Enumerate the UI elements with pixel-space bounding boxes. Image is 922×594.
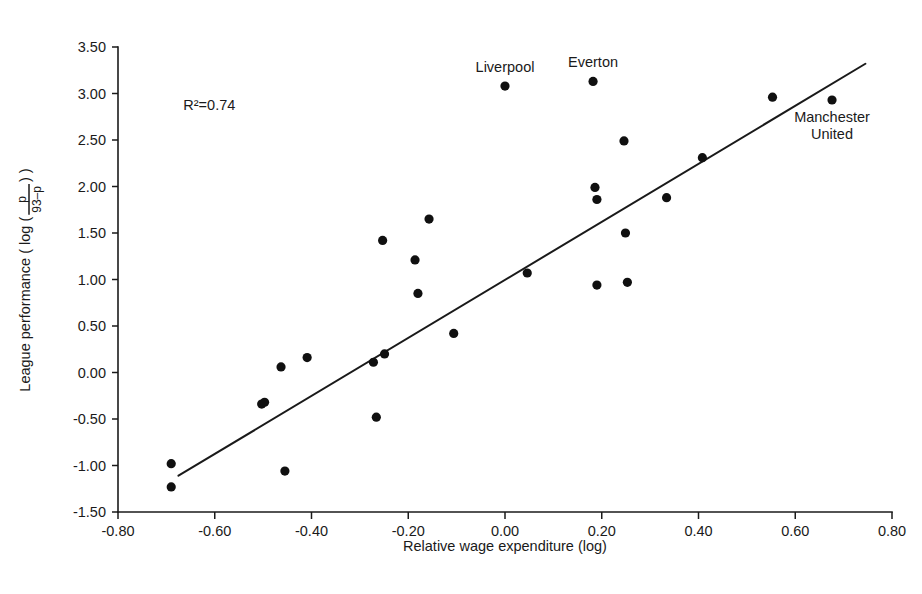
data-point [410, 255, 419, 264]
x-tick-label: 0.80 [878, 523, 906, 539]
chart-figure: -1.50-1.00-0.500.000.501.001.502.002.503… [0, 0, 922, 594]
y-tick-label: -1.50 [73, 504, 106, 520]
y-axis-title-text: League performance ( log ( [17, 217, 33, 392]
data-point [827, 95, 836, 104]
data-point [500, 81, 509, 90]
data-point [369, 358, 378, 367]
x-tick-label: 0.00 [491, 523, 519, 539]
x-axis-ticks: -0.80-0.60-0.40-0.200.000.200.400.600.80 [101, 512, 906, 539]
y-tick-label: 3.00 [78, 86, 106, 102]
x-tick-label: -0.80 [101, 523, 134, 539]
data-point [621, 228, 630, 237]
x-tick-label: 0.60 [781, 523, 809, 539]
y-tick-label: 1.50 [78, 225, 106, 241]
point-annotation-label: Manchester [794, 109, 870, 125]
point-annotations-group: LiverpoolEvertonManchesterUnited [476, 54, 870, 142]
y-axis-ticks: -1.50-1.00-0.500.000.501.001.502.002.503… [73, 39, 118, 520]
data-point [698, 153, 707, 162]
data-point [280, 466, 289, 475]
x-tick-label: -0.20 [392, 523, 425, 539]
y-tick-label: 0.50 [78, 318, 106, 334]
regression-trend-line [178, 64, 865, 476]
point-annotation-label: United [811, 126, 853, 142]
data-point [380, 349, 389, 358]
y-axis-title-suffix: ) ) [17, 168, 33, 182]
data-points-group [167, 77, 837, 492]
data-point [167, 482, 176, 491]
x-axis-title: Relative wage expenditure (log) [403, 538, 607, 554]
data-point [167, 459, 176, 468]
data-point [424, 214, 433, 223]
data-point [260, 398, 269, 407]
data-point [623, 278, 632, 287]
data-point [372, 413, 381, 422]
point-annotation-label: Everton [568, 54, 618, 70]
data-point [768, 93, 777, 102]
x-tick-label: -0.40 [295, 523, 328, 539]
data-point [662, 193, 671, 202]
y-tick-label: 1.00 [78, 272, 106, 288]
x-tick-label: -0.60 [198, 523, 231, 539]
data-point [303, 353, 312, 362]
data-point [588, 77, 597, 86]
x-tick-label: 0.20 [588, 523, 616, 539]
y-tick-label: 2.00 [78, 179, 106, 195]
y-tick-label: 2.50 [78, 132, 106, 148]
point-annotation-label: Liverpool [476, 59, 535, 75]
scatter-plot-svg: -1.50-1.00-0.500.000.501.001.502.002.503… [0, 0, 922, 594]
y-axis-title: League performance ( log ( p 93–p ) ) [15, 168, 44, 391]
r-squared-annotation: R²=0.74 [183, 97, 235, 113]
data-point [592, 195, 601, 204]
data-point [590, 183, 599, 192]
y-axis-fraction: p 93–p [15, 184, 44, 215]
y-axis-fraction-denominator: 93–p [30, 186, 44, 213]
y-axis-title-prefix: League performance ( log ( [17, 217, 33, 392]
y-tick-label: 3.50 [78, 39, 106, 55]
data-point [592, 280, 601, 289]
y-tick-label: -0.50 [73, 411, 106, 427]
y-axis-title-suffix-text: ) ) [17, 168, 33, 182]
data-point [378, 236, 387, 245]
x-tick-label: 0.40 [684, 523, 712, 539]
y-tick-label: 0.00 [78, 365, 106, 381]
trend-line-group [178, 64, 865, 476]
y-tick-label: -1.00 [73, 458, 106, 474]
data-point [449, 329, 458, 338]
data-point [413, 289, 422, 298]
data-point [523, 268, 532, 277]
data-point [276, 362, 285, 371]
y-axis-fraction-numerator: p [15, 196, 29, 203]
data-point [619, 136, 628, 145]
